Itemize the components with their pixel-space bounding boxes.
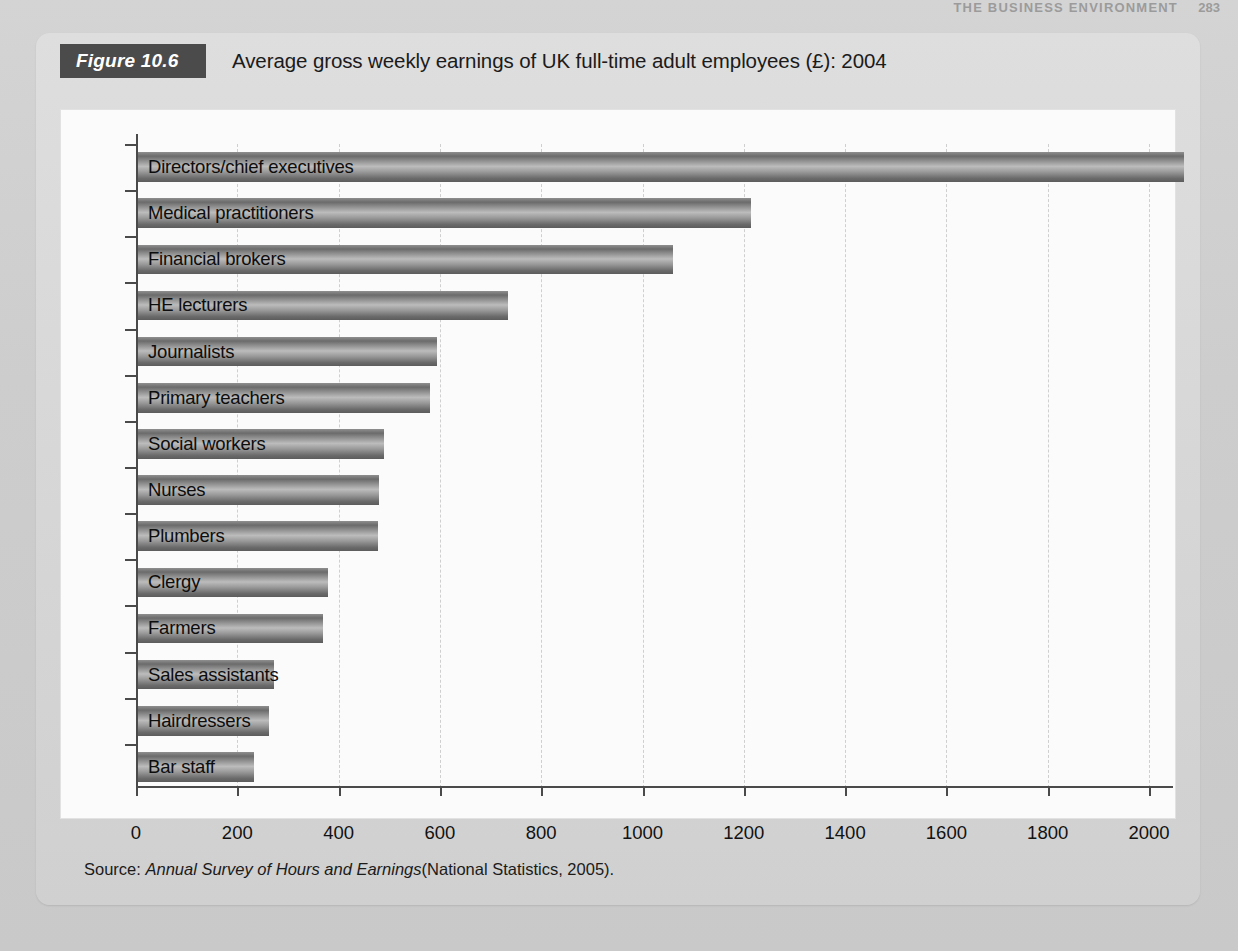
figure-panel: Figure 10.6 Average gross weekly earning… xyxy=(36,33,1200,905)
y-axis-line xyxy=(136,134,138,788)
y-axis-tick xyxy=(125,329,137,331)
y-axis-tick xyxy=(125,698,137,700)
x-axis-tick xyxy=(237,787,239,796)
x-axis-tick-label: 400 xyxy=(323,822,354,844)
running-head-page-number: 283 xyxy=(1198,0,1220,15)
x-axis-tick-label: 0 xyxy=(131,822,141,844)
x-axis-tick-label: 800 xyxy=(526,822,557,844)
y-axis-tick xyxy=(125,375,137,377)
y-axis-tick xyxy=(125,744,137,746)
chart-plot-area: Directors/chief executivesMedical practi… xyxy=(60,109,1176,819)
figure-header: Figure 10.6 Average gross weekly earning… xyxy=(36,33,1200,89)
x-axis-tick-label: 1200 xyxy=(723,822,764,844)
y-axis-tick xyxy=(125,144,137,146)
figure-source-note: Source: Annual Survey of Hours and Earni… xyxy=(84,860,614,879)
x-axis-tick xyxy=(845,787,847,796)
y-axis-tick xyxy=(125,467,137,469)
figure-number-badge: Figure 10.6 xyxy=(60,44,206,78)
source-prefix: Source: xyxy=(84,860,141,878)
y-axis-tick xyxy=(125,605,137,607)
running-head: THE BUSINESS ENVIRONMENT 283 xyxy=(0,0,1238,22)
x-axis-tick-label: 1000 xyxy=(622,822,663,844)
x-axis-tick xyxy=(339,787,341,796)
running-head-title: THE BUSINESS ENVIRONMENT xyxy=(953,0,1178,15)
x-axis-tick xyxy=(1048,787,1050,796)
x-axis-tick xyxy=(1149,787,1151,796)
x-axis-tick xyxy=(643,787,645,796)
x-axis-tick xyxy=(136,787,138,796)
y-axis-tick xyxy=(125,559,137,561)
figure-title: Average gross weekly earnings of UK full… xyxy=(232,49,887,73)
x-axis-line xyxy=(136,786,1173,788)
y-axis-tick xyxy=(125,236,137,238)
y-axis-tick xyxy=(125,421,137,423)
source-publication-title: Annual Survey of Hours and Earnings xyxy=(145,860,421,878)
x-axis-tick xyxy=(440,787,442,796)
y-axis-tick xyxy=(125,513,137,515)
x-axis-tick xyxy=(541,787,543,796)
y-axis-tick xyxy=(125,652,137,654)
x-axis-tick-label: 1600 xyxy=(926,822,967,844)
x-axis-tick-label: 2000 xyxy=(1128,822,1169,844)
y-axis-tick xyxy=(125,190,137,192)
x-axis-tick-label: 1400 xyxy=(825,822,866,844)
x-axis-tick-label: 600 xyxy=(424,822,455,844)
x-axis-tick-label: 200 xyxy=(222,822,253,844)
y-axis-tick xyxy=(125,282,137,284)
axes xyxy=(61,110,1175,818)
x-axis-tick xyxy=(946,787,948,796)
x-axis-tick-label: 1800 xyxy=(1027,822,1068,844)
x-axis-tick xyxy=(744,787,746,796)
x-axis-tick-labels: 0200400600800100012001400160018002000 xyxy=(61,822,1175,848)
source-suffix: (National Statistics, 2005). xyxy=(422,860,615,878)
